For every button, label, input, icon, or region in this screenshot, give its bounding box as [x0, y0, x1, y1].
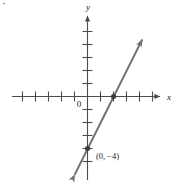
point-label-y-intercept: (0, −4) — [96, 151, 119, 161]
figure-container: · — [0, 0, 182, 185]
x-axis-label: x — [166, 92, 171, 102]
coordinate-plane-graphic: x y 0 — [0, 0, 182, 185]
point-marker-x-intercept — [111, 94, 116, 99]
origin-label: 0 — [77, 99, 82, 109]
point-marker-y-intercept — [85, 146, 90, 151]
y-axis-label: y — [85, 2, 90, 12]
y-axis-group: y — [83, 2, 93, 180]
x-axis-group: x — [12, 92, 171, 102]
